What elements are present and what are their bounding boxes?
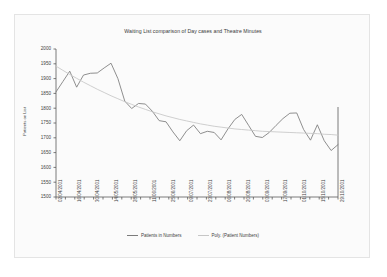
legend-swatch-icon xyxy=(198,235,209,236)
legend-entry[interactable]: Poly. (Patient Numbers) xyxy=(198,233,259,238)
series-group xyxy=(56,63,338,150)
axes-group xyxy=(54,49,339,200)
chart-object-frame: Waiting List comparison of Day cases and… xyxy=(14,14,370,258)
series-line-poly xyxy=(56,66,338,135)
legend-label: Patients in Numbers xyxy=(141,233,182,238)
legend-label: Poly. (Patient Numbers) xyxy=(212,233,259,238)
legend-entry[interactable]: Patients in Numbers xyxy=(127,233,182,238)
legend-swatch-icon xyxy=(127,235,138,236)
plot-area: Waiting List comparison of Day cases and… xyxy=(15,15,371,259)
series-line-patients xyxy=(56,63,338,150)
chart-legend: Patients in NumbersPoly. (Patient Number… xyxy=(15,233,371,238)
chart-plot-svg xyxy=(15,15,371,259)
screenshot-root: Waiting List comparison of Day cases and… xyxy=(0,0,387,277)
